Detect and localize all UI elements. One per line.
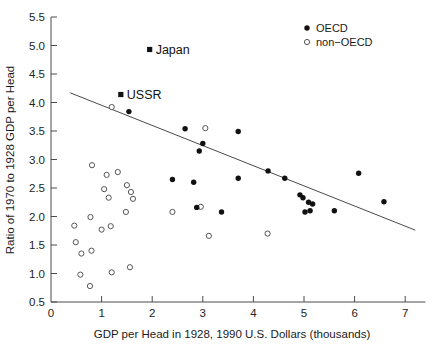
legend-label: non−OECD — [316, 36, 373, 48]
y-tick-label: 4.5 — [29, 68, 45, 80]
data-point — [265, 168, 270, 173]
data-point — [206, 233, 211, 238]
data-point — [89, 248, 94, 253]
regression-line — [70, 93, 415, 230]
data-point — [108, 224, 113, 229]
data-point — [109, 104, 114, 109]
data-point — [200, 141, 205, 146]
legend-marker-oecd — [304, 25, 309, 30]
y-tick-label: 3.5 — [29, 125, 45, 137]
annotated-data-point — [118, 92, 123, 97]
data-point — [88, 214, 93, 219]
y-tick-label: 5.5 — [29, 11, 45, 23]
annotation-labels: JapanUSSR — [127, 43, 190, 102]
x-tick-label: 7 — [402, 307, 408, 319]
data-point — [130, 196, 135, 201]
data-point — [87, 283, 92, 288]
data-point — [102, 187, 107, 192]
point-annotation-label: Japan — [156, 43, 190, 57]
data-point — [265, 231, 270, 236]
data-point — [72, 223, 77, 228]
data-point — [99, 227, 104, 232]
x-tick-label: 1 — [98, 307, 104, 319]
data-point — [197, 148, 202, 153]
data-point — [78, 272, 83, 277]
y-tick-label: 0.5 — [29, 296, 45, 308]
data-points-oecd — [126, 109, 386, 215]
annotated-data-point — [147, 47, 152, 52]
data-point — [381, 199, 386, 204]
data-point — [236, 129, 241, 134]
data-point — [89, 163, 94, 168]
data-point — [115, 169, 120, 174]
x-tick-label: 6 — [351, 307, 357, 319]
data-point — [128, 189, 133, 194]
data-point — [79, 251, 84, 256]
data-point — [124, 183, 129, 188]
point-annotation-label: USSR — [127, 88, 162, 102]
data-point — [282, 176, 287, 181]
data-point — [332, 208, 337, 213]
x-axis-title: GDP per Head in 1928, 1990 U.S. Dollars … — [94, 328, 371, 340]
y-tick-label: 3.0 — [29, 154, 45, 166]
data-point — [126, 109, 131, 114]
x-tick-label: 2 — [149, 307, 155, 319]
x-tick-label: 5 — [301, 307, 307, 319]
y-axis-title: Ratio of 1970 to 1928 GDP per Head — [4, 66, 16, 254]
chart-legend: OECDnon−OECD — [304, 22, 372, 48]
data-point — [219, 209, 224, 214]
y-axis-ticks: 0.51.01.52.02.53.03.54.04.55.05.5 — [29, 11, 57, 308]
data-point — [123, 209, 128, 214]
data-point — [194, 205, 199, 210]
data-point — [182, 126, 187, 131]
chart-canvas: 0.51.01.52.02.53.03.54.04.55.05.5 012345… — [0, 0, 445, 346]
x-axis-ticks: 01234567 — [48, 296, 409, 319]
x-tick-label: 4 — [250, 307, 257, 319]
data-point — [307, 208, 312, 213]
data-point — [310, 201, 315, 206]
legend-label: OECD — [316, 22, 348, 34]
data-point — [203, 126, 208, 131]
data-point — [191, 180, 196, 185]
data-point — [302, 209, 307, 214]
data-point — [236, 176, 241, 181]
x-tick-label: 0 — [48, 307, 54, 319]
data-point — [127, 265, 132, 270]
data-point — [73, 240, 78, 245]
scatter-chart: 0.51.01.52.02.53.03.54.04.55.05.5 012345… — [0, 0, 445, 346]
data-point — [104, 172, 109, 177]
y-tick-label: 1.5 — [29, 239, 45, 251]
y-tick-label: 2.0 — [29, 211, 45, 223]
data-point — [356, 170, 361, 175]
data-point — [109, 270, 114, 275]
y-tick-label: 4.0 — [29, 97, 45, 109]
x-tick-label: 3 — [200, 307, 206, 319]
data-point — [170, 209, 175, 214]
y-tick-label: 1.0 — [29, 268, 45, 280]
legend-marker-non-oecd — [304, 39, 309, 44]
y-tick-label: 2.5 — [29, 182, 45, 194]
y-tick-label: 5.0 — [29, 40, 45, 52]
data-point — [106, 195, 111, 200]
data-point — [300, 195, 305, 200]
data-point — [170, 177, 175, 182]
